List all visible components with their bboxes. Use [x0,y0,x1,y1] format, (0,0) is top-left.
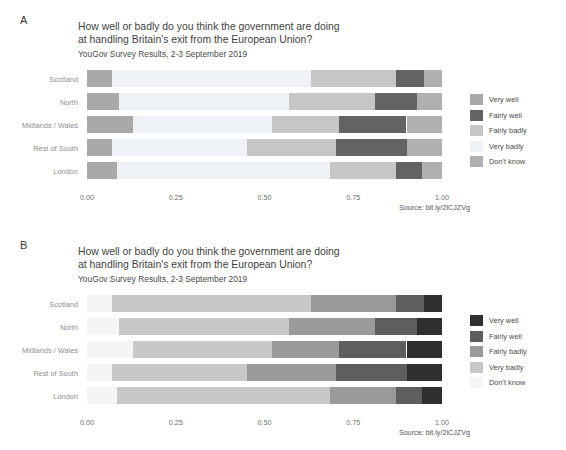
panel-a-y-axis-labels: ScotlandNorthMidlands / WalesRest of Sou… [0,66,82,191]
bar-segment [417,318,442,335]
legend-swatch-icon [470,94,483,105]
bar-segment [396,295,424,312]
bar-segment [396,387,423,404]
legend-item[interactable]: Very badly [470,360,566,376]
legend-swatch-icon [470,331,483,342]
legend-item[interactable]: Fairly well [470,108,566,124]
x-axis-tick-label: 1.00 [435,418,449,427]
panel-a: A How well or badly do you think the gov… [0,0,566,225]
panel-b-title-block: How well or badly do you think the gover… [78,246,408,285]
legend-item[interactable]: Very well [470,92,566,108]
legend-label: Very badly [489,142,524,151]
y-axis-tick-label: Rest of South [33,368,78,377]
y-axis-tick-label: Rest of South [33,143,78,152]
x-axis-tick-label: 0.50 [258,193,272,202]
legend-item[interactable]: Fairly badly [470,344,566,360]
legend-item[interactable]: Fairly badly [470,123,566,139]
panel-a-title-line-1: How well or badly do you think the gover… [78,21,408,34]
legend-label: Don't know [489,157,525,166]
legend-label: Very badly [489,363,524,372]
bar-segment [117,387,330,404]
x-axis-tick-label: 1.00 [435,193,449,202]
panel-a-subtitle: YouGov Survey Results, 2-3 September 201… [78,48,408,60]
panel-b-title-line-1: How well or badly do you think the gover… [78,246,408,259]
panel-a-letter: A [20,14,28,26]
legend-item[interactable]: Very well [470,313,566,329]
bar-segment [112,364,247,381]
x-axis-tick-label: 0.25 [169,418,183,427]
bar-segment [87,93,119,110]
legend-swatch-icon [470,110,483,121]
bar-segment [407,139,443,156]
bar-segment [247,139,336,156]
bar-segment [87,162,117,179]
panel-a-source-caption: Source: bit.ly/2lCJZVg [399,203,470,212]
bar-segment [339,116,406,133]
panel-b-letter: B [20,239,28,251]
panel-b-legend: Very wellFairly wellFairly badlyVery bad… [470,313,566,391]
bar-segment [119,318,289,335]
panel-b-subtitle: YouGov Survey Results, 2-3 September 201… [78,273,408,285]
legend-swatch-icon [470,315,483,326]
legend-item[interactable]: Don't know [470,154,566,170]
bar-segment [87,70,112,87]
bar-segment [272,116,339,133]
y-axis-tick-label: Scotland [49,74,78,83]
bar-segment [87,387,117,404]
bar-row [87,116,442,133]
legend-label: Don't know [489,378,525,387]
panel-a-legend: Very wellFairly wellFairly badlyVery bad… [470,92,566,170]
bar-segment [311,70,396,87]
legend-swatch-icon [470,156,483,167]
bar-segment [330,387,396,404]
x-axis-tick-label: 0.00 [80,193,94,202]
bar-segment [311,295,396,312]
bar-segment [87,341,133,358]
bar-segment [336,139,407,156]
legend-label: Very well [489,316,519,325]
bar-segment [112,70,311,87]
bar-row [87,387,442,404]
bar-segment [119,93,289,110]
bar-segment [87,295,112,312]
bar-segment [424,295,442,312]
x-axis-tick-label: 0.75 [346,418,360,427]
legend-swatch-icon [470,125,483,136]
bar-segment [407,116,443,133]
panel-b-title-line-2: at handling Britain's exit from the Euro… [78,259,408,272]
bar-row [87,139,442,156]
bar-segment [112,295,311,312]
bar-segment [133,116,271,133]
x-axis-tick-label: 0.25 [169,193,183,202]
legend-label: Very well [489,95,519,104]
bar-segment [87,116,133,133]
y-axis-tick-label: Scotland [49,299,78,308]
panel-b: B How well or badly do you think the gov… [0,225,566,450]
legend-swatch-icon [470,362,483,373]
bar-segment [422,387,442,404]
bar-segment [133,341,271,358]
bar-segment [339,341,406,358]
x-axis-tick-label: 0.50 [258,418,272,427]
bar-segment [422,162,442,179]
bar-segment [272,341,339,358]
bar-segment [396,70,424,87]
legend-item[interactable]: Don't know [470,375,566,391]
panel-a-bars [87,66,442,191]
bar-segment [247,364,336,381]
y-axis-tick-label: North [60,97,78,106]
bar-row [87,162,442,179]
y-axis-tick-label: Midlands / Wales [22,345,78,354]
legend-label: Fairly well [489,332,522,341]
bar-segment [375,93,418,110]
bar-segment [417,93,442,110]
bar-segment [407,341,443,358]
x-axis-tick-label: 0.00 [80,418,94,427]
legend-swatch-icon [470,141,483,152]
legend-item[interactable]: Fairly well [470,329,566,345]
bar-row [87,341,442,358]
panel-a-title-block: How well or badly do you think the gover… [78,21,408,60]
panel-a-title-line-2: at handling Britain's exit from the Euro… [78,34,408,47]
legend-label: Fairly well [489,111,522,120]
legend-item[interactable]: Very badly [470,139,566,155]
